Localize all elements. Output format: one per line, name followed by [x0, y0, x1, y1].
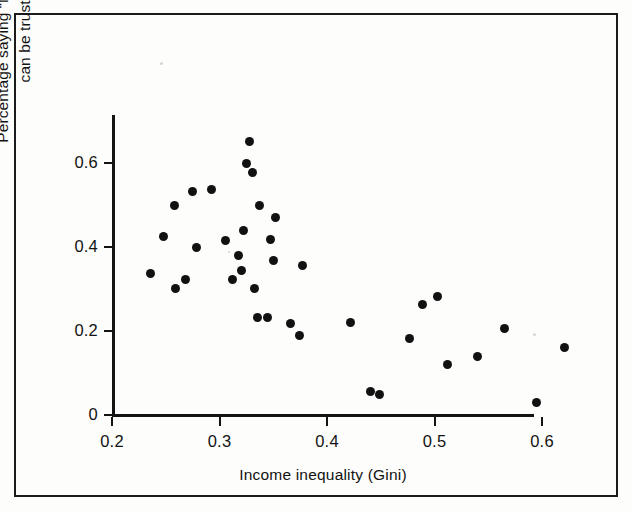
y-axis-title-line1: Percentage saying “Most people: [0, 0, 11, 143]
x-tick: [219, 417, 221, 426]
y-tick: [104, 330, 113, 332]
paper-speck: [160, 62, 163, 65]
y-tick-label: 0.6: [50, 153, 98, 172]
paper-speck: [228, 251, 230, 253]
scatter-point: [266, 235, 275, 244]
y-tick: [104, 414, 113, 416]
figure-container: 00.20.40.6 0.20.30.40.50.6 Income inequa…: [0, 0, 632, 513]
x-tick-label: 0.6: [516, 432, 568, 451]
scatter-point: [500, 324, 509, 333]
x-tick-label: 0.4: [301, 432, 353, 451]
y-axis-line: [112, 115, 115, 417]
x-tick: [111, 417, 113, 426]
scatter-point: [366, 387, 375, 396]
scatter-point: [443, 360, 452, 369]
y-axis-title: Percentage saying “Most people can be tr…: [0, 0, 37, 150]
scatter-point: [473, 352, 482, 361]
scatter-point: [171, 284, 180, 293]
scatter-point: [271, 213, 280, 222]
x-tick: [434, 417, 436, 426]
y-tick: [104, 162, 113, 164]
scatter-point: [298, 261, 307, 270]
x-tick: [326, 417, 328, 426]
scatter-point: [295, 331, 304, 340]
scatter-point: [346, 318, 355, 327]
scatter-point: [253, 313, 262, 322]
figure-frame: [14, 13, 618, 497]
scatter-point: [242, 159, 251, 168]
scatter-point: [263, 313, 272, 322]
y-tick-label: 0: [50, 405, 98, 424]
scatter-point: [248, 168, 257, 177]
scatter-point: [192, 243, 201, 252]
y-tick-label: 0.2: [50, 321, 98, 340]
paper-speck: [533, 333, 536, 336]
scatter-point: [146, 269, 155, 278]
x-axis-line: [112, 414, 534, 417]
scatter-point: [237, 266, 246, 275]
y-tick-label: 0.4: [50, 237, 98, 256]
x-tick-label: 0.5: [409, 432, 461, 451]
scatter-point: [239, 226, 248, 235]
scatter-point: [375, 390, 384, 399]
x-axis-title: Income inequality (Gini): [112, 466, 534, 484]
scatter-point: [286, 319, 295, 328]
scatter-point: [269, 256, 278, 265]
scatter-point: [181, 275, 190, 284]
y-tick: [104, 246, 113, 248]
scatter-point: [255, 201, 264, 210]
scatter-point: [433, 292, 442, 301]
x-tick-label: 0.3: [194, 432, 246, 451]
y-axis-title-line2: can be trusted”: [14, 0, 36, 150]
x-tick: [541, 417, 543, 426]
x-tick-label: 0.2: [86, 432, 138, 451]
